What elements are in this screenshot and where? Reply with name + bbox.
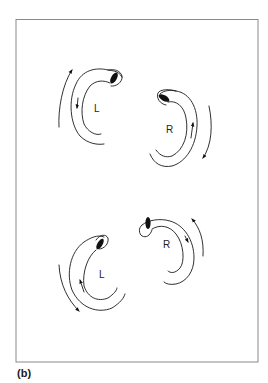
figure-frame bbox=[16, 20, 258, 363]
outer-arrow bbox=[203, 106, 211, 158]
shape-top-right: R bbox=[150, 90, 211, 167]
shape-bottom-right: R bbox=[139, 217, 203, 284]
side-label: R bbox=[163, 239, 170, 250]
figure-caption: (b) bbox=[17, 367, 31, 379]
outer-arrow bbox=[59, 70, 72, 127]
diagram-figure: L R L R bbox=[0, 0, 268, 383]
side-label: L bbox=[99, 269, 105, 280]
outer-curve bbox=[142, 220, 194, 285]
shape-top-left: L bbox=[59, 69, 122, 144]
inner-arrow bbox=[185, 236, 188, 242]
hook-curve bbox=[139, 225, 152, 237]
side-label: L bbox=[94, 103, 100, 114]
shape-bottom-left: L bbox=[59, 235, 125, 311]
inner-arrow bbox=[77, 98, 78, 108]
blob bbox=[145, 217, 150, 229]
side-label: R bbox=[166, 124, 173, 135]
inner-arrow bbox=[191, 123, 193, 138]
